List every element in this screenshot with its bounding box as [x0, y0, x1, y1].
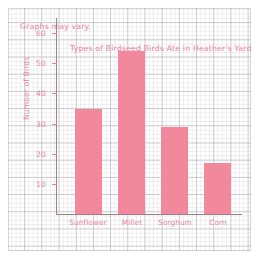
x-tick-label-sunflower: Sunflower: [69, 218, 106, 227]
y-axis-title: Number of Birds: [22, 57, 31, 120]
y-tick-label: 50: [36, 59, 46, 68]
x-tick-label-sorghum: Sorghum: [158, 218, 192, 227]
bar-corn: [204, 163, 231, 214]
plot-area: 10 20 30 40 50 60 Sunflower Millet Sorgh…: [56, 18, 242, 215]
y-tick-mark: 10: [52, 184, 57, 185]
y-axis-line: [56, 18, 57, 215]
graph-paper-background: Graphs may vary. Types of Birdseed Birds…: [8, 8, 251, 251]
bar-sorghum: [161, 127, 188, 214]
y-tick-label: 20: [36, 150, 46, 159]
x-tick-label-corn: Corn: [209, 218, 226, 227]
y-tick-label: 40: [36, 89, 46, 98]
x-tick-label-millet: Millet: [122, 218, 142, 227]
y-tick-mark: 60: [52, 33, 57, 34]
y-tick-mark: 30: [52, 124, 57, 125]
bar-millet: [118, 51, 145, 214]
y-tick-mark: 50: [52, 63, 57, 64]
bar-sunflower: [75, 109, 102, 215]
x-axis-line: [56, 214, 242, 215]
y-tick-mark: 40: [52, 93, 57, 94]
y-tick-label: 30: [36, 120, 46, 129]
y-tick-label: 60: [36, 29, 46, 38]
y-tick-label: 10: [36, 180, 46, 189]
y-tick-mark: 20: [52, 154, 57, 155]
